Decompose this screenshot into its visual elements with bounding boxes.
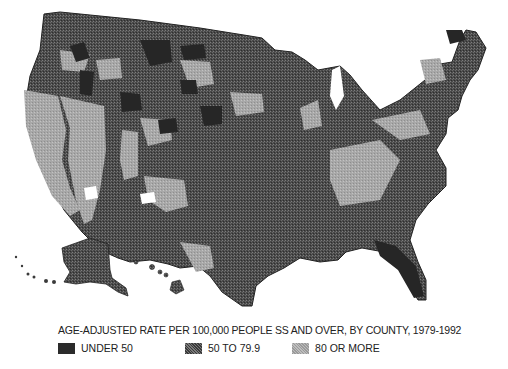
legend-label: 80 OR MORE [315, 342, 380, 354]
map-caption: AGE-ADJUSTED RATE PER 100,000 PEOPLE SS … [58, 324, 461, 336]
us-map-graphic [0, 0, 508, 315]
legend-swatch-mid [185, 343, 202, 354]
legend-label: 50 TO 79.9 [208, 342, 260, 354]
map-legend: UNDER 50 50 TO 79.9 80 OR MORE [58, 342, 402, 354]
legend-swatch-dark [58, 343, 75, 354]
legend-item-80-or-more: 80 OR MORE [292, 342, 380, 354]
legend-item-50-to-79-9: 50 TO 79.9 [185, 342, 260, 354]
choropleth-map [0, 0, 508, 315]
legend-label: UNDER 50 [81, 342, 133, 354]
legend-swatch-light [292, 343, 309, 354]
aleutian-islands [15, 256, 56, 284]
legend-item-under-50: UNDER 50 [58, 342, 133, 354]
